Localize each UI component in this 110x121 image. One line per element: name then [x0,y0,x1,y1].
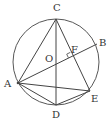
point-A-dot [17,82,20,85]
circle-diagram: CDABEOF [0,0,110,121]
point-label-E: E [91,93,98,104]
segment-DE [56,91,90,105]
point-label-A: A [3,78,12,89]
point-label-B: B [99,37,106,48]
point-label-C: C [53,2,61,13]
point-label-O: O [45,53,53,64]
geometry-figure: CDABEOF [0,0,110,121]
point-label-F: F [71,44,78,55]
point-label-D: D [52,109,60,120]
